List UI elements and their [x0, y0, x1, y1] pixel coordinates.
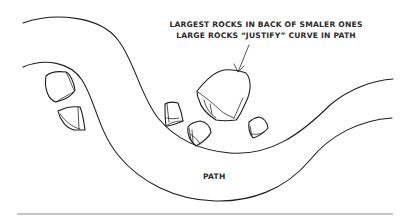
path-label: PATH [203, 172, 226, 181]
small-rock-center-1 [165, 102, 183, 126]
annotation-arrow [234, 45, 249, 72]
small-rock-center-2 [188, 121, 211, 146]
small-rock-left-2 [58, 107, 85, 130]
small-rock-left-1 [45, 72, 75, 102]
annotation-line-1: LARGEST ROCKS IN BACK OF SMALER ONES [156, 19, 376, 30]
small-rock-right [249, 117, 268, 138]
large-rock [197, 70, 250, 121]
annotation-line-2: LARGE ROCKS “JUSTIFY” CURVE IN PATH [156, 30, 376, 41]
